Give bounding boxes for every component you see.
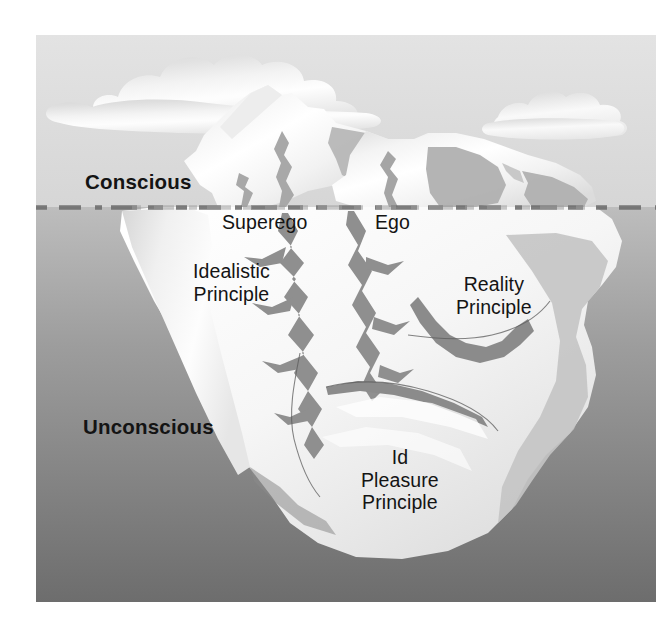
label-superego: Superego (222, 211, 307, 234)
label-reality-principle: Reality Principle (456, 273, 532, 318)
iceberg-diagram: Conscious Unconscious Superego Ego Ideal… (0, 0, 668, 628)
illustration-frame: Conscious Unconscious Superego Ego Ideal… (36, 35, 656, 602)
label-unconscious: Unconscious (83, 415, 214, 439)
iceberg-scene-svg (36, 35, 656, 602)
label-ego: Ego (375, 211, 410, 234)
label-id-pleasure-principle: Id Pleasure Principle (361, 446, 439, 514)
label-conscious: Conscious (85, 170, 192, 194)
label-idealistic-principle: Idealistic Principle (193, 260, 270, 305)
